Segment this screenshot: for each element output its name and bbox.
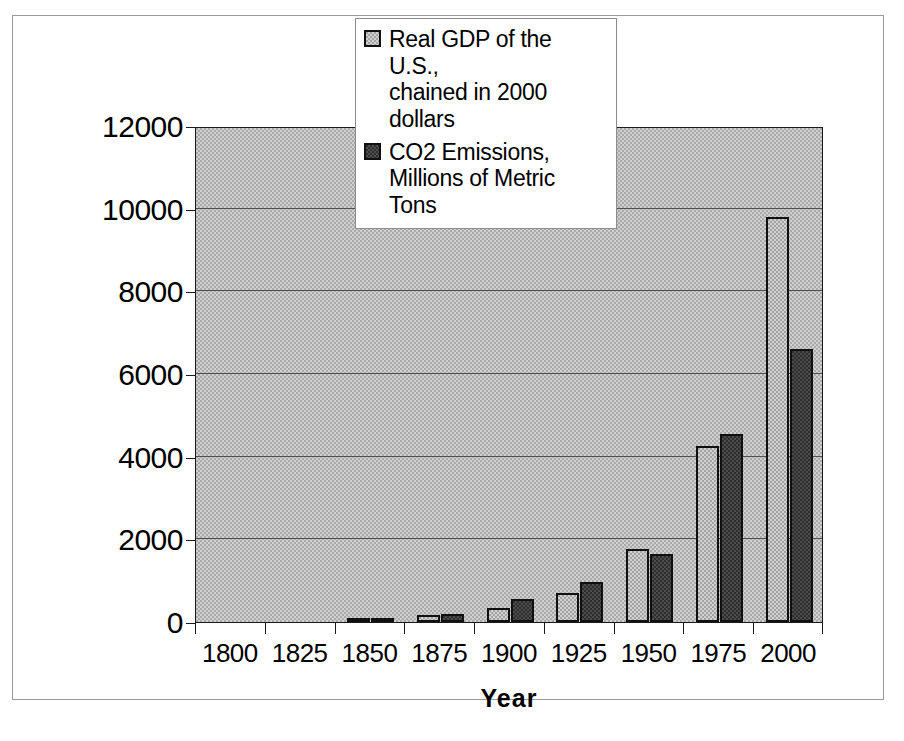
y-axis-label: 2000 bbox=[118, 523, 183, 557]
y-axis-label: 0 bbox=[167, 606, 183, 640]
x-axis-tick bbox=[683, 623, 684, 634]
bar-co2-1950 bbox=[650, 554, 673, 622]
y-axis-tick bbox=[186, 540, 195, 541]
y-axis-label: 4000 bbox=[118, 441, 183, 475]
y-axis-tick bbox=[186, 127, 195, 128]
x-axis-tick bbox=[544, 623, 545, 634]
x-axis-tick bbox=[753, 623, 754, 634]
legend-label-co2-line2: Millions of Metric Tons bbox=[389, 165, 555, 218]
x-axis-tick bbox=[474, 623, 475, 634]
x-axis-label: 1900 bbox=[481, 638, 537, 669]
bar-co2-1875 bbox=[441, 614, 464, 622]
legend-item-gdp: Real GDP of the U.S., chained in 2000 do… bbox=[364, 26, 606, 133]
bar-co2-1850 bbox=[371, 618, 394, 622]
x-axis-labels: 180018251850187519001925195019752000 bbox=[195, 638, 823, 678]
x-axis-tick bbox=[195, 623, 196, 634]
bar-co2-1900 bbox=[511, 599, 534, 622]
x-axis-label: 1925 bbox=[551, 638, 607, 669]
legend-label-co2: CO2 Emissions, Millions of Metric Tons bbox=[389, 139, 606, 219]
x-axis-label: 1800 bbox=[202, 638, 258, 669]
chart-figure: 020004000600080001000012000 180018251850… bbox=[12, 15, 884, 700]
gridline bbox=[196, 290, 822, 291]
y-axis-tick bbox=[186, 375, 195, 376]
gdp-swatch-icon bbox=[364, 30, 381, 47]
legend-label-gdp: Real GDP of the U.S., chained in 2000 do… bbox=[389, 26, 606, 133]
x-axis-tick bbox=[614, 623, 615, 634]
bar-gdp-2000 bbox=[766, 217, 789, 622]
x-axis-label: 1850 bbox=[342, 638, 398, 669]
y-axis-tick bbox=[186, 458, 195, 459]
bar-co2-2000 bbox=[790, 349, 813, 622]
legend-label-gdp-line2: chained in 2000 dollars bbox=[389, 79, 547, 132]
y-axis-tick bbox=[186, 210, 195, 211]
x-axis-label: 1950 bbox=[621, 638, 677, 669]
bar-gdp-1975 bbox=[696, 446, 719, 622]
x-axis-tick bbox=[822, 623, 823, 634]
y-axis-label: 6000 bbox=[118, 358, 183, 392]
x-axis-title: Year bbox=[195, 684, 823, 713]
chart-legend: Real GDP of the U.S., chained in 2000 do… bbox=[355, 18, 617, 229]
bar-gdp-1900 bbox=[487, 608, 510, 622]
x-axis-label: 1875 bbox=[411, 638, 467, 669]
y-axis-label: 8000 bbox=[118, 275, 183, 309]
y-axis-label: 12000 bbox=[102, 110, 183, 144]
bar-gdp-1850 bbox=[347, 618, 370, 622]
x-axis-tick bbox=[335, 623, 336, 634]
co2-swatch-icon bbox=[364, 143, 381, 160]
x-axis-tick bbox=[265, 623, 266, 634]
legend-label-gdp-line1: Real GDP of the U.S., bbox=[389, 26, 552, 79]
x-axis-ticks bbox=[195, 623, 823, 635]
bar-co2-1975 bbox=[720, 434, 743, 622]
legend-label-co2-line1: CO2 Emissions, bbox=[389, 139, 550, 165]
y-axis-tick bbox=[186, 623, 195, 624]
bar-gdp-1950 bbox=[626, 549, 649, 622]
x-axis-label: 1975 bbox=[690, 638, 746, 669]
bar-gdp-1875 bbox=[417, 615, 440, 622]
y-axis-label: 10000 bbox=[102, 193, 183, 227]
x-axis-label: 2000 bbox=[760, 638, 816, 669]
bar-co2-1925 bbox=[580, 582, 603, 622]
legend-item-co2: CO2 Emissions, Millions of Metric Tons bbox=[364, 139, 606, 219]
y-axis-labels: 020004000600080001000012000 bbox=[53, 127, 183, 623]
gridline bbox=[196, 373, 822, 374]
y-axis-tick bbox=[186, 292, 195, 293]
x-axis-label: 1825 bbox=[272, 638, 328, 669]
x-axis-tick bbox=[404, 623, 405, 634]
bar-gdp-1925 bbox=[556, 593, 579, 622]
